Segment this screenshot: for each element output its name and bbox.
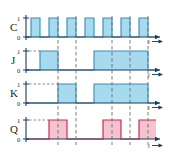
k-low-label: 0 [17, 100, 20, 107]
k-pulse [58, 84, 76, 103]
q-high-label: 1 [17, 117, 20, 124]
j-high-label: 1 [17, 48, 20, 55]
j-low-label: 0 [17, 67, 20, 74]
q-low-label: 0 [17, 136, 20, 143]
clock-pulse [49, 18, 58, 37]
q-pulse [139, 120, 156, 139]
k-pulse [94, 84, 148, 103]
clock-pulse [139, 18, 148, 37]
row-label-j: J [11, 54, 16, 66]
clock-pulse [31, 18, 40, 37]
k-high-label: 1 [17, 81, 20, 88]
clock-pulse [85, 18, 94, 37]
j-pulse [40, 51, 58, 70]
timing-diagram-canvas: C 1 0 t J 1 0 t [0, 0, 177, 155]
clock-pulse [67, 18, 76, 37]
clock-low-label: 0 [17, 34, 20, 41]
clock-high-label: 1 [17, 15, 20, 22]
k-pulse-fills [58, 84, 148, 103]
clock-pulse [103, 18, 112, 37]
j-pulse [94, 51, 148, 70]
row-label-c: C [10, 21, 17, 33]
row-label-q: Q [10, 123, 18, 135]
timing-diagram-figure: C 1 0 t J 1 0 t [0, 0, 177, 155]
clock-pulse [121, 18, 130, 37]
row-label-k: K [10, 87, 18, 99]
